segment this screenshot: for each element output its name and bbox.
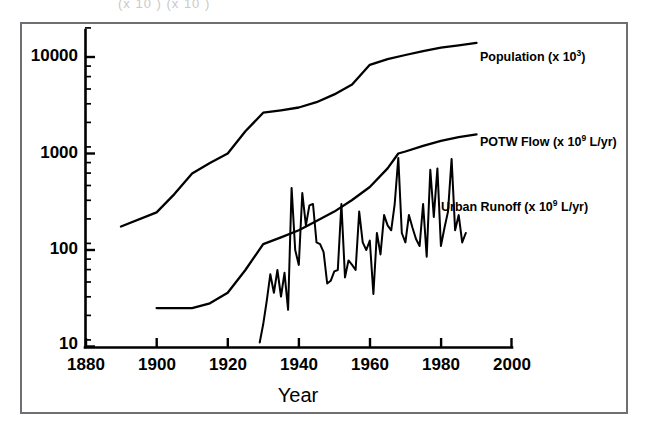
series-label-urban-runoff-tail: L/yr) (558, 200, 589, 214)
x-tick-label-1920: 1920 (194, 355, 262, 375)
axes (85, 30, 512, 348)
x-axis-title: Year (238, 384, 358, 407)
series-label-potw-tail: L/yr) (586, 135, 617, 149)
y-tick-label-10000: 10000 (8, 46, 78, 66)
x-ticks (86, 338, 512, 347)
x-tick-label-1880: 1880 (52, 355, 120, 375)
series-population-line (121, 43, 477, 227)
chart-page: (x 10 ) (x 10 ) (0, 0, 646, 434)
x-tick-label-1900: 1900 (123, 355, 191, 375)
series-label-urban-runoff: Urban Runoff (x 109 L/yr) (441, 198, 588, 214)
series-urban-runoff-line (260, 158, 466, 343)
x-tick-label-2000: 2000 (478, 355, 546, 375)
y-tick-label-1000: 1000 (8, 143, 78, 163)
y-tick-label-100: 100 (8, 239, 78, 259)
series-label-urban-runoff-text: Urban Runoff (x 10 (441, 200, 553, 214)
series-label-potw: POTW Flow (x 109 L/yr) (480, 133, 617, 149)
x-tick-label-1960: 1960 (336, 355, 404, 375)
x-tick-label-1940: 1940 (265, 355, 333, 375)
series-label-potw-text: POTW Flow (x 10 (480, 135, 581, 149)
y-tick-label-10: 10 (8, 334, 78, 354)
series-label-population-text: Population (x 10 (480, 50, 577, 64)
series-label-population-tail: ) (581, 50, 585, 64)
x-tick-label-1980: 1980 (407, 355, 475, 375)
series-label-population: Population (x 103) (480, 48, 585, 64)
